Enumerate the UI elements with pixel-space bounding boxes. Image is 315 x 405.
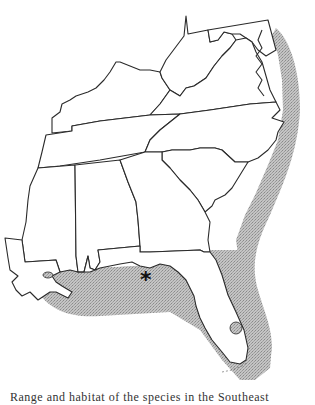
figure-caption: Range and habitat of the species in the … xyxy=(10,390,310,405)
lake-pontchartrain xyxy=(43,272,53,278)
locality-marker-asterisk: * xyxy=(140,267,152,292)
state-mississippi xyxy=(22,165,78,272)
lake-okeechobee xyxy=(230,322,242,334)
